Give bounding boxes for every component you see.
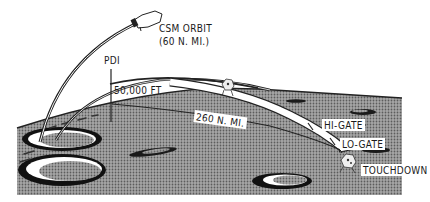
crater-large-bottom-left bbox=[18, 154, 106, 186]
altitude-label: 50,000 FT bbox=[114, 85, 162, 96]
hi-gate-label: HI-GATE bbox=[322, 119, 365, 131]
csm-spacecraft-icon bbox=[130, 11, 162, 31]
lunar-descent-diagram: CSM ORBIT (60 N. MI.) PDI 50,000 FT 260 … bbox=[0, 0, 430, 202]
pdi-label: PDI bbox=[104, 55, 120, 66]
touchdown-label: TOUCHDOWN bbox=[361, 164, 430, 176]
crater-far-dash-1 bbox=[286, 99, 306, 103]
lo-gate-label: LO-GATE bbox=[340, 138, 385, 150]
crater-far-dash-2 bbox=[350, 109, 376, 115]
csm-orbit-label-line1: CSM ORBIT bbox=[159, 23, 212, 34]
csm-orbit-label-line2: (60 N. MI.) bbox=[159, 36, 209, 47]
crater-bottom-right bbox=[252, 173, 312, 189]
